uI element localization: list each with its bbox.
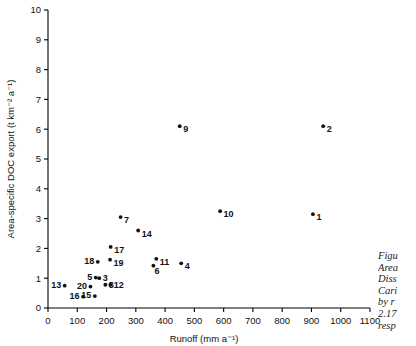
caption-line: Cari <box>378 285 416 297</box>
x-tick-label: 700 <box>245 315 261 326</box>
data-point-marker <box>321 124 325 128</box>
y-tick-label: 0 <box>36 302 41 313</box>
data-point-marker <box>81 295 85 299</box>
data-point-marker <box>119 215 123 219</box>
y-tick-label: 5 <box>36 153 41 164</box>
data-point-marker <box>178 124 182 128</box>
x-axis: 010020030040050060070080090010001100 <box>45 308 380 326</box>
caption-line: Figu <box>378 250 416 262</box>
x-tick-label: 200 <box>99 315 115 326</box>
y-axis: 012345678910 <box>30 4 48 313</box>
data-point-label: 10 <box>224 209 234 219</box>
y-tick-label: 7 <box>36 94 41 105</box>
data-point-label: 7 <box>124 215 129 225</box>
caption-line: resp <box>378 320 416 332</box>
data-point-label: 18 <box>84 256 94 266</box>
x-tick-label: 300 <box>128 315 144 326</box>
x-tick-label: 600 <box>216 315 232 326</box>
y-tick-label: 8 <box>36 64 41 75</box>
data-point-marker <box>218 209 222 213</box>
figure-caption: FiguAreaDissCariby r2.17resp <box>378 250 416 331</box>
y-tick-label: 1 <box>36 273 41 284</box>
caption-line: Area <box>378 262 416 274</box>
y-tick-label: 4 <box>36 183 41 194</box>
scatter-plot: 012345678910 010020030040050060070080090… <box>0 0 416 346</box>
x-tick-label: 400 <box>157 315 173 326</box>
data-point-marker <box>136 229 140 233</box>
data-point-label: 5 <box>87 272 92 282</box>
y-tick-label: 10 <box>30 4 41 15</box>
data-point-marker <box>154 257 158 261</box>
data-point-marker <box>93 294 97 298</box>
caption-line: by r <box>378 296 416 308</box>
figure-panel: 012345678910 010020030040050060070080090… <box>0 0 416 346</box>
x-tick-label: 1000 <box>330 315 351 326</box>
data-point-marker <box>97 276 101 280</box>
data-point-label: 20 <box>77 281 87 291</box>
data-point-label: 14 <box>142 229 152 239</box>
data-point-marker <box>94 276 98 280</box>
data-point-label: 17 <box>114 245 124 255</box>
x-axis-title: Runoff (mm a⁻¹) <box>170 333 239 344</box>
data-point-marker <box>96 260 100 264</box>
data-point-marker <box>103 283 107 287</box>
data-point-marker <box>109 245 113 249</box>
data-point-label: 16 <box>70 291 80 301</box>
data-point-marker <box>89 285 93 289</box>
data-point-marker <box>179 261 183 265</box>
caption-line: 2.17 <box>378 308 416 320</box>
data-point-label: 3 <box>103 273 108 283</box>
x-tick-label: 900 <box>304 315 320 326</box>
data-point-marker <box>108 258 112 262</box>
data-point-label: 13 <box>51 280 61 290</box>
data-point-marker <box>63 284 67 288</box>
data-point-label: 12 <box>114 280 124 290</box>
data-point-marker <box>311 212 315 216</box>
y-axis-title: Area-specific DOC export (t km⁻² a⁻¹) <box>5 80 16 239</box>
data-point-label: 4 <box>185 261 190 271</box>
y-tick-label: 3 <box>36 213 41 224</box>
x-tick-label: 500 <box>186 315 202 326</box>
y-tick-label: 9 <box>36 34 41 45</box>
caption-line: Diss <box>378 273 416 285</box>
data-point-marker <box>108 283 112 287</box>
y-tick-label: 6 <box>36 124 41 135</box>
x-tick-label: 0 <box>45 315 50 326</box>
data-point-label: 11 <box>160 257 170 267</box>
data-point-label: 9 <box>183 124 188 134</box>
y-tick-label: 2 <box>36 243 41 254</box>
x-tick-label: 800 <box>274 315 290 326</box>
x-tick-label: 100 <box>69 315 85 326</box>
data-point-label: 1 <box>316 212 321 222</box>
data-point-label: 6 <box>154 266 159 276</box>
data-point-label: 2 <box>327 124 332 134</box>
data-points: 1234567891011121314151617181920 <box>51 124 332 300</box>
data-point-label: 19 <box>114 258 124 268</box>
